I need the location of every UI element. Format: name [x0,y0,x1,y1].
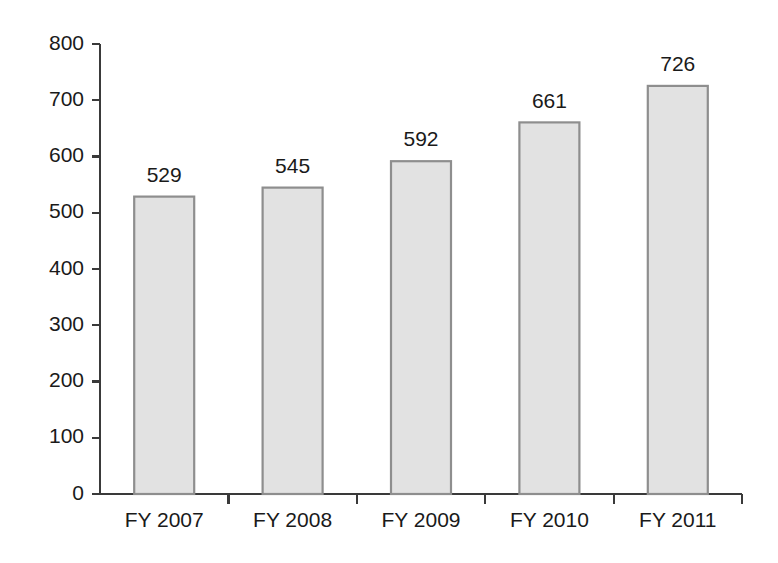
value-label-fy-2007: 529 [147,163,182,186]
bar-fy-2007 [134,197,194,494]
value-label-fy-2009: 592 [403,127,438,150]
y-tick-label-200: 200 [49,368,84,391]
y-tick-label-800: 800 [49,31,84,54]
y-axis-tick-labels: 0 100 200 300 400 500 600 700 800 [49,31,84,504]
bar-chart-figure: 0 100 200 300 400 500 600 700 800 [0,0,778,563]
y-tick-label-0: 0 [72,481,84,504]
x-tick-label-fy-2010: FY 2010 [510,508,589,531]
y-tick-label-300: 300 [49,312,84,335]
x-tick-label-fy-2009: FY 2009 [381,508,460,531]
bar-fy-2011 [648,86,708,494]
x-tick-label-fy-2008: FY 2008 [253,508,332,531]
x-axis-ticks [228,494,742,504]
y-tick-label-600: 600 [49,143,84,166]
value-label-fy-2010: 661 [532,89,567,112]
x-axis-tick-labels: FY 2007 FY 2008 FY 2009 FY 2010 FY 2011 [125,508,717,531]
chart-canvas: 0 100 200 300 400 500 600 700 800 [0,0,778,563]
bar-fy-2008 [263,188,323,494]
value-label-fy-2008: 545 [275,154,310,177]
value-label-fy-2011: 726 [660,52,695,75]
bar-fy-2009 [391,161,451,494]
y-tick-label-700: 700 [49,87,84,110]
y-axis-ticks [92,44,100,494]
y-tick-label-500: 500 [49,199,84,222]
x-tick-label-fy-2011: FY 2011 [639,508,716,531]
y-tick-label-400: 400 [49,256,84,279]
bar-fy-2010 [519,122,579,494]
y-tick-label-100: 100 [49,424,84,447]
x-tick-label-fy-2007: FY 2007 [125,508,204,531]
